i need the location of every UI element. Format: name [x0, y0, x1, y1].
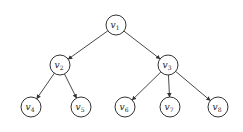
edge-v3-v7: [168, 75, 169, 97]
node-v2: v2: [50, 55, 70, 75]
tree-diagram: v1v2v3v4v5v6v7v8: [0, 0, 243, 132]
edge-v3-v6: [132, 72, 161, 100]
node-v4: v4: [21, 97, 41, 117]
edge-v2-v5: [64, 74, 76, 98]
edge-v2-v4: [37, 73, 55, 99]
edge-v1-v2: [68, 31, 108, 59]
edge-v1-v3: [124, 31, 160, 59]
node-v5: v5: [71, 97, 91, 117]
node-v6: v6: [115, 97, 135, 117]
node-v3: v3: [158, 55, 178, 75]
node-v1: v1: [106, 15, 126, 35]
node-v8: v8: [208, 97, 228, 117]
nodes: v1v2v3v4v5v6v7v8: [21, 15, 228, 117]
edge-v3-v8: [176, 71, 211, 100]
node-v7: v7: [160, 97, 180, 117]
